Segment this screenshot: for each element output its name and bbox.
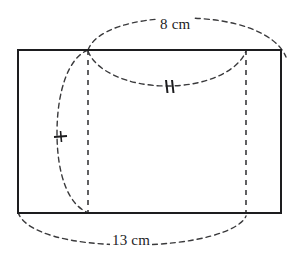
left-ellipse-arc [57, 50, 89, 213]
geometry-figure: 8 cm 13 cm [0, 0, 292, 260]
figure-canvas [0, 0, 292, 260]
dimension-label-top: 8 cm [158, 17, 192, 32]
single-tick-left-arc [54, 131, 67, 142]
dimension-label-bottom: 13 cm [110, 233, 152, 248]
